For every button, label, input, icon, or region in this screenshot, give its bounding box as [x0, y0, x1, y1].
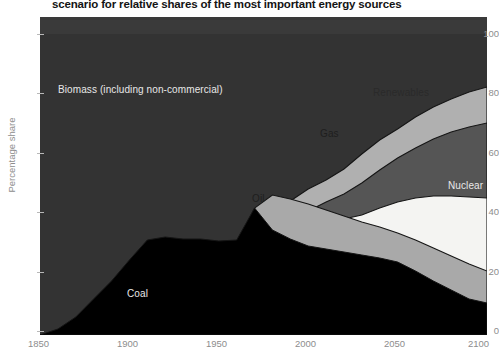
band-label-renewables: Renewables — [373, 87, 429, 98]
ytick-40: 40 — [465, 207, 499, 217]
band-label-coal: Coal — [127, 288, 148, 299]
ytick-dash-0 — [37, 331, 44, 332]
ytick-dash-20 — [37, 272, 44, 273]
energy-shares-chart: scenario for relative shares of the most… — [0, 0, 499, 354]
header-band — [40, 17, 487, 34]
xtick-2050: 2050 — [384, 338, 405, 349]
ytick-100: 100 — [465, 29, 499, 39]
stacked-area-svg — [40, 17, 487, 335]
ytick-dash-40 — [37, 212, 44, 213]
ytick-dash-80 — [37, 93, 44, 94]
band-label-oil: Oil — [252, 193, 265, 204]
ytick-20: 20 — [465, 267, 499, 277]
y-axis-label: Percentage share — [6, 123, 17, 193]
band-label-gas: Gas — [320, 128, 339, 139]
ytick-80: 80 — [465, 88, 499, 98]
xtick-2000: 2000 — [295, 338, 316, 349]
ytick-dash-60 — [37, 153, 44, 154]
band-label-nuclear: Nuclear — [448, 180, 483, 191]
xtick-1950: 1950 — [206, 338, 227, 349]
xtick-1850: 1850 — [28, 338, 49, 349]
plot-area — [40, 17, 487, 335]
xtick-2100: 2100 — [468, 338, 489, 349]
chart-title: scenario for relative shares of the most… — [52, 0, 482, 13]
ytick-60: 60 — [465, 148, 499, 158]
ytick-0: 0 — [465, 326, 499, 336]
xtick-1900: 1900 — [117, 338, 138, 349]
band-label-biomass: Biomass (including non-commercial) — [58, 84, 223, 95]
ytick-dash-100 — [37, 34, 44, 35]
